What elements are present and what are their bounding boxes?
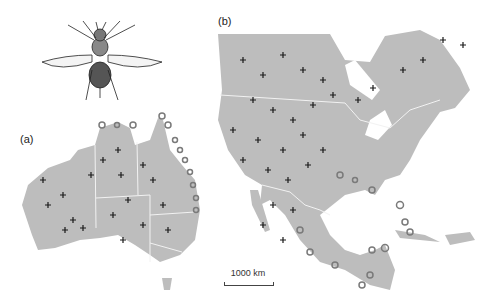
australia-map (22, 118, 200, 290)
fly-illustration (42, 21, 162, 100)
scale-label: 1000 km (222, 268, 274, 278)
scale-bar (224, 282, 274, 286)
panel-a-label: (a) (20, 133, 33, 145)
panel-b-label: (b) (218, 15, 231, 27)
figure-canvas (0, 0, 497, 308)
north-america-map (218, 30, 475, 290)
